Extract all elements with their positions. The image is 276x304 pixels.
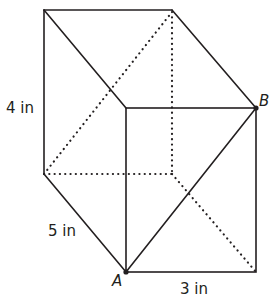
point-A-label: A [111,272,122,290]
diagonal-AB [126,108,256,272]
point-B-label: B [259,92,269,110]
edge-top-left-depth [44,10,126,108]
hidden-edge-bottom-right-depth [172,174,256,272]
depth-label: 5 in [48,222,76,240]
vertex-A [123,269,128,274]
hidden-diagonal-back-face [44,12,172,174]
height-label: 4 in [6,99,34,117]
vertex-B [253,105,258,110]
edge-top-right-depth [172,10,256,108]
width-label: 3 in [180,280,208,298]
rectangular-prism-diagram: 4 in 5 in 3 in A B [0,0,276,304]
